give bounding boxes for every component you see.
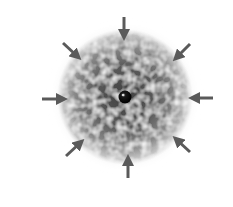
collapse-diagram bbox=[0, 0, 233, 207]
central-core bbox=[119, 91, 132, 104]
